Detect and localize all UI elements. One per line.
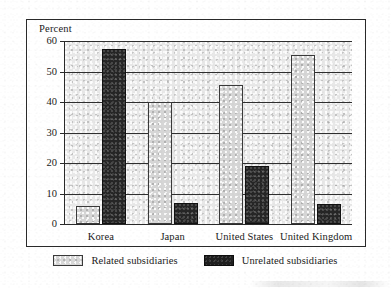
bar-japan-related	[148, 102, 172, 224]
bar-united-kingdom-unrelated	[317, 204, 341, 224]
y-axis-label: 50	[47, 66, 58, 77]
x-axis-label-korea: Korea	[88, 231, 114, 242]
y-axis-tick	[60, 224, 65, 225]
x-axis-label-united-kingdom: United Kingdom	[280, 231, 352, 242]
bar-united-states-unrelated	[245, 166, 269, 224]
y-axis-label: 10	[47, 188, 58, 199]
bar-united-kingdom-related	[291, 55, 315, 224]
y-axis-title: Percent	[39, 23, 72, 34]
x-axis-label-japan: Japan	[160, 231, 184, 242]
plot-area: 0102030405060KoreaJapanUnited StatesUnit…	[64, 41, 352, 225]
y-axis-tick	[60, 102, 65, 103]
chart-frame: Percent 0102030405060KoreaJapanUnited St…	[26, 19, 366, 247]
legend-label: Related subsidiaries	[91, 255, 177, 266]
bar-korea-related	[76, 206, 100, 224]
y-axis-label: 0	[52, 219, 57, 230]
y-axis-label: 60	[47, 36, 58, 47]
scan-artifact	[250, 281, 390, 287]
y-axis-tick	[60, 194, 65, 195]
y-axis-label: 20	[47, 158, 58, 169]
y-axis-tick	[60, 72, 65, 73]
y-axis-label: 30	[47, 127, 58, 138]
legend-item-unrelated: Unrelated subsidiaries	[204, 255, 338, 266]
bar-japan-unrelated	[174, 203, 198, 224]
y-axis-tick	[60, 163, 65, 164]
bar-korea-unrelated	[102, 49, 126, 224]
chart-legend: Related subsidiariesUnrelated subsidiari…	[0, 255, 391, 266]
dark-swatch	[204, 255, 234, 266]
y-axis-label: 40	[47, 97, 58, 108]
bar-united-states-related	[219, 85, 243, 224]
x-axis-label-united-states: United States	[216, 231, 274, 242]
legend-item-related: Related subsidiaries	[53, 255, 177, 266]
y-axis-tick	[60, 41, 65, 42]
gridline	[65, 41, 352, 42]
legend-label: Unrelated subsidiaries	[242, 255, 338, 266]
y-axis-tick	[60, 133, 65, 134]
light-gray-swatch	[53, 255, 83, 266]
